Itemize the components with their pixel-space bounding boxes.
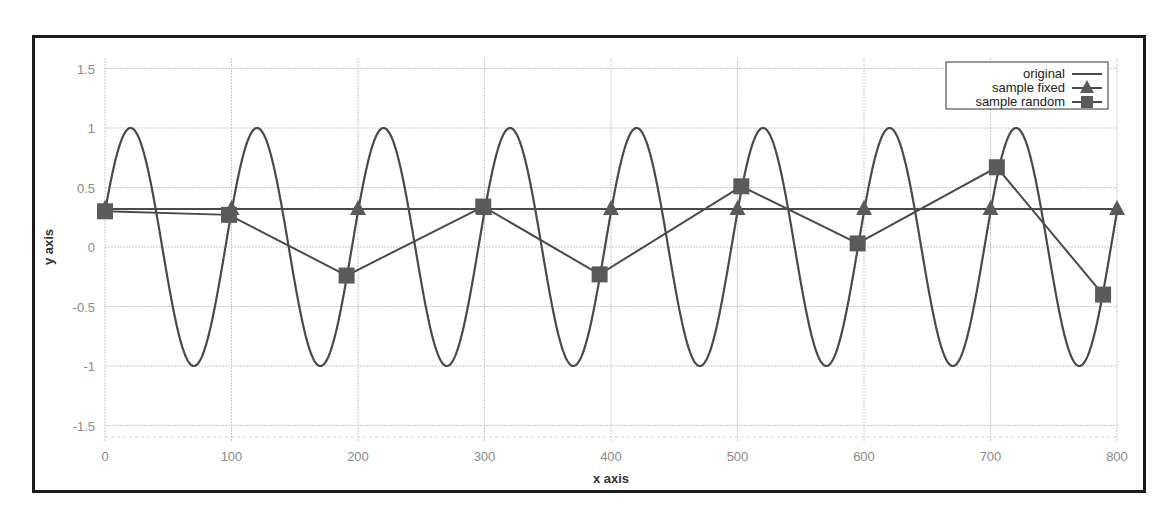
triangle-marker xyxy=(730,200,746,215)
square-marker xyxy=(592,266,608,282)
grid-lines xyxy=(105,58,1117,441)
legend-label: sample fixed xyxy=(992,80,1065,95)
legend-square-icon xyxy=(1081,96,1093,108)
x-tick-label: 800 xyxy=(1106,449,1128,464)
y-tick-label: -1 xyxy=(83,359,95,374)
series-sample-fixed xyxy=(97,200,1125,215)
legend-label: sample random xyxy=(975,94,1065,109)
x-tick-label: 700 xyxy=(980,449,1002,464)
triangle-marker xyxy=(350,200,366,215)
y-tick-label: 0 xyxy=(88,240,95,255)
legend: originalsample fixedsample random xyxy=(946,62,1108,109)
line-chart: 1.510.50-0.5-1-1.5 010020030040050060070… xyxy=(0,0,1170,525)
x-axis-label: x axis xyxy=(593,471,629,486)
x-axis-ticks: 0100200300400500600700800 xyxy=(101,449,1127,464)
y-axis-label: y axis xyxy=(41,229,56,265)
y-axis-ticks: 1.510.50-0.5-1-1.5 xyxy=(73,62,95,434)
x-tick-label: 600 xyxy=(853,449,875,464)
triangle-marker xyxy=(983,200,999,215)
square-marker xyxy=(97,203,113,219)
x-tick-label: 500 xyxy=(727,449,749,464)
series-sample-random xyxy=(97,159,1111,302)
triangle-marker xyxy=(1109,200,1125,215)
y-tick-label: 0.5 xyxy=(77,181,95,196)
square-marker xyxy=(733,178,749,194)
x-tick-label: 200 xyxy=(347,449,369,464)
y-tick-label: 1.5 xyxy=(77,62,95,77)
triangle-marker xyxy=(603,200,619,215)
square-marker xyxy=(1095,287,1111,303)
y-tick-label: 1 xyxy=(88,121,95,136)
x-tick-label: 100 xyxy=(221,449,243,464)
triangle-marker xyxy=(856,200,872,215)
square-marker xyxy=(850,235,866,251)
square-marker xyxy=(989,159,1005,175)
y-tick-label: -0.5 xyxy=(73,300,95,315)
square-marker xyxy=(475,199,491,215)
x-tick-label: 300 xyxy=(474,449,496,464)
square-marker xyxy=(339,268,355,284)
legend-label: original xyxy=(1023,66,1065,81)
x-tick-label: 400 xyxy=(600,449,622,464)
y-tick-label: -1.5 xyxy=(73,419,95,434)
square-marker xyxy=(221,207,237,223)
x-tick-label: 0 xyxy=(101,449,108,464)
